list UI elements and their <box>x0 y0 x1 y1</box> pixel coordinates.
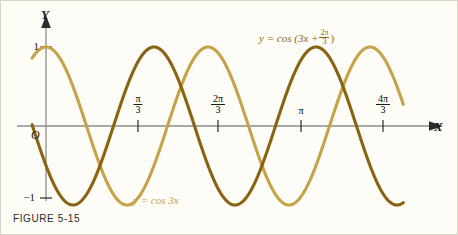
x-tick-numerator: π <box>133 94 142 104</box>
x-tick-label-4pi-over-3: 4π 3 <box>376 94 390 115</box>
plot-canvas <box>1 1 458 235</box>
curve-label-denominator: 3 <box>319 37 329 46</box>
x-axis-label: X <box>434 119 443 135</box>
curve-label-text: y = cos 3x <box>133 194 179 206</box>
x-tick-denominator: 3 <box>133 104 142 115</box>
curve-label-head: y = cos (3x + <box>259 32 318 44</box>
curve-label-numerator: 2π <box>319 29 329 37</box>
x-tick-denominator: 3 <box>376 104 390 115</box>
x-tick-denominator: 3 <box>211 104 225 115</box>
x-tick-value: π <box>298 106 303 116</box>
curve-label-tail: ) <box>330 32 334 44</box>
x-tick-numerator: 2π <box>211 94 225 104</box>
y-tick-label-neg1: −1 <box>13 191 35 203</box>
y-tick-label-1: 1 <box>17 40 39 52</box>
figure-caption: FIGURE 5-15 <box>13 213 80 224</box>
x-tick-label-pi-over-3: π 3 <box>133 94 142 115</box>
figure-container: Y X O 1 −1 π 3 2π 3 π 4π 3 y = cos (3x +… <box>0 0 458 235</box>
curve-label-cos-3x-plus-2pi-over-3: y = cos (3x +2π3) <box>259 29 334 47</box>
origin-label: O <box>31 128 40 143</box>
x-tick-label-pi: π <box>298 106 303 116</box>
x-tick-label-2pi-over-3: 2π 3 <box>211 94 225 115</box>
y-axis-label: Y <box>41 7 49 23</box>
x-tick-numerator: 4π <box>376 94 390 104</box>
curve-label-cos-3x: y = cos 3x <box>133 194 179 206</box>
